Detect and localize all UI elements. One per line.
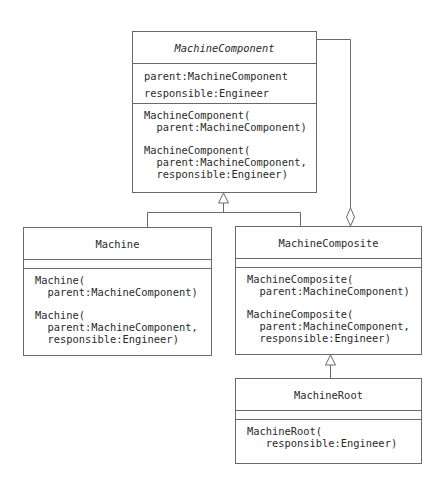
operation-line: responsible:Engineer)	[247, 437, 421, 449]
operation-line: parent:MachineComponent,	[144, 156, 316, 168]
class-name-text: Machine	[96, 238, 140, 250]
operation: Machine( parent:MachineComponent)	[35, 274, 211, 298]
operation-line: Machine(	[35, 309, 211, 321]
attributes-section	[236, 259, 421, 268]
aggregation-line	[316, 40, 355, 227]
operation: MachineRoot( responsible:Engineer)	[247, 425, 421, 449]
operation-line: MachineComposite(	[247, 273, 421, 285]
operation: Machine( parent:MachineComponent, respon…	[35, 309, 211, 345]
generalization-arrowhead-icon	[326, 355, 336, 365]
aggregation-diamond-icon	[347, 208, 355, 226]
class-machine-component: MachineComponent parent:MachineComponent…	[132, 31, 317, 193]
operation-line: MachineComposite(	[247, 308, 421, 320]
operation-line: Machine(	[35, 274, 211, 286]
class-name-text: MachineRoot	[294, 389, 363, 401]
operation-line: parent:MachineComponent)	[35, 286, 211, 298]
attribute: parent:MachineComponent	[144, 68, 316, 85]
attribute: responsible:Engineer	[144, 85, 316, 102]
operation: MachineComposite( parent:MachineComponen…	[247, 308, 421, 344]
generalization-to-machine-composite	[326, 355, 336, 378]
operations-section: MachineComponent( parent:MachineComponen…	[133, 104, 316, 180]
operations-section: Machine( parent:MachineComponent) Machin…	[24, 269, 211, 345]
operation: MachineComponent( parent:MachineComponen…	[144, 144, 316, 180]
operation: MachineComposite( parent:MachineComponen…	[247, 273, 421, 297]
operation-line: parent:MachineComponent)	[144, 121, 316, 133]
operation-line: responsible:Engineer)	[247, 332, 421, 344]
attributes-section	[24, 260, 211, 269]
operation-line: MachineComponent(	[144, 109, 316, 121]
operations-section: MachineRoot( responsible:Engineer)	[236, 420, 421, 449]
class-name-text: MachineComponent	[174, 42, 274, 54]
class-machine-root: MachineRoot MachineRoot( responsible:Eng…	[235, 378, 422, 464]
attributes-section	[236, 411, 421, 420]
class-machine: Machine Machine( parent:MachineComponent…	[23, 227, 212, 356]
class-name: MachineComposite	[236, 227, 421, 259]
generalization-to-machine-component	[148, 193, 301, 227]
operation-line: parent:MachineComponent)	[247, 285, 421, 297]
operation-line: responsible:Engineer)	[35, 333, 211, 345]
class-name-text: MachineComposite	[278, 237, 378, 249]
operation-line: MachineComponent(	[144, 144, 316, 156]
operation: MachineComponent( parent:MachineComponen…	[144, 109, 316, 133]
class-machine-composite: MachineComposite MachineComposite( paren…	[235, 226, 422, 355]
uml-class-diagram: MachineComponent parent:MachineComponent…	[0, 0, 447, 483]
class-name: MachineRoot	[236, 379, 421, 411]
operations-section: MachineComposite( parent:MachineComponen…	[236, 268, 421, 344]
operation-line: MachineRoot(	[247, 425, 421, 437]
class-name: MachineComponent	[133, 32, 316, 64]
operation-line: responsible:Engineer)	[144, 168, 316, 180]
operation-line: parent:MachineComponent,	[35, 321, 211, 333]
attributes-section: parent:MachineComponent responsible:Engi…	[133, 64, 316, 104]
generalization-arrowhead-icon	[219, 193, 229, 203]
operation-line: parent:MachineComponent,	[247, 320, 421, 332]
class-name: Machine	[24, 228, 211, 260]
